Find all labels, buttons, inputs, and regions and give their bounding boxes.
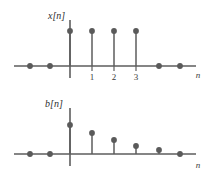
sample-marker-bottom (111, 137, 117, 143)
sample-marker-bottom (89, 130, 95, 136)
sample-marker-bottom (67, 122, 73, 128)
signal-label-x: x[n] (47, 10, 65, 21)
figure-root: x[n] 1 2 3 n (0, 0, 207, 181)
sample-marker-top (111, 28, 117, 34)
sample-marker-top (89, 28, 95, 34)
x-tick-label-1: 1 (90, 72, 95, 82)
stem-plot-x-svg: x[n] 1 2 3 n (0, 0, 207, 90)
stem-plot-b-svg: b[n] n (0, 90, 207, 181)
sample-marker-bottom (156, 147, 162, 153)
x-tick-label-2: 2 (112, 72, 117, 82)
sample-marker-top (67, 28, 73, 34)
stem-plot-x-of-n: x[n] 1 2 3 n (0, 0, 207, 90)
sample-marker-top (156, 63, 162, 69)
x-axis-label-bottom: n (196, 160, 201, 170)
sample-marker-top (27, 63, 33, 69)
sample-marker-top (47, 63, 53, 69)
sample-marker-top (133, 28, 139, 34)
sample-marker-bottom (177, 151, 183, 157)
x-tick-label-3: 3 (134, 72, 139, 82)
x-axis-label-top: n (196, 70, 201, 80)
sample-marker-top (177, 63, 183, 69)
stem-plot-b-of-n: b[n] n (0, 90, 207, 181)
sample-marker-bottom (27, 151, 33, 157)
sample-marker-bottom (47, 151, 53, 157)
signal-label-b: b[n] (45, 98, 63, 109)
sample-marker-bottom (133, 143, 139, 149)
